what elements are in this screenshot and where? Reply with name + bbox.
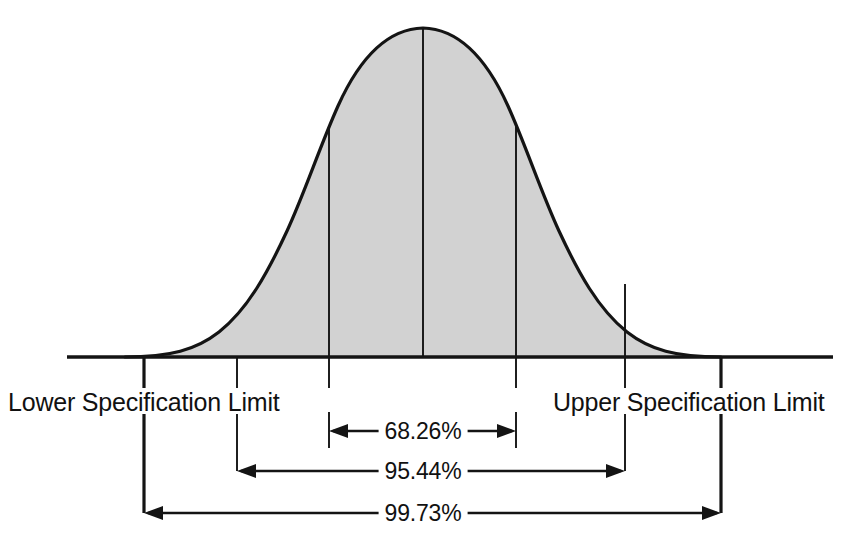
percent-label-one-sigma: 68.26% xyxy=(379,420,468,443)
upper-specification-limit-label: Upper Specification Limit xyxy=(553,390,825,415)
lower-specification-limit-label: Lower Specification Limit xyxy=(8,390,280,415)
percent-label-three-sigma: 99.73% xyxy=(379,502,468,525)
normal-distribution-figure: Lower Specification Limit Upper Specific… xyxy=(0,0,865,540)
percent-label-two-sigma: 95.44% xyxy=(379,460,468,483)
